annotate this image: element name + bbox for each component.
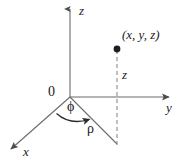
cylindrical-coordinates-diagram: z (x, y, z) z 0 y ϕ ρ x — [0, 0, 182, 166]
y-axis-label: y — [166, 101, 172, 114]
origin-label: 0 — [48, 85, 55, 99]
point-coordinates-label: (x, y, z) — [122, 28, 160, 41]
rho-radius-label: ρ — [87, 122, 94, 136]
phi-angle-arc — [57, 114, 90, 122]
phi-angle-label: ϕ — [67, 100, 74, 114]
point-marker — [114, 46, 121, 53]
z-axis-label: z — [79, 4, 84, 17]
diagram-canvas — [0, 0, 182, 166]
z-height-label: z — [122, 68, 127, 81]
x-axis-label: x — [23, 145, 29, 158]
x-axis-line — [11, 97, 70, 149]
